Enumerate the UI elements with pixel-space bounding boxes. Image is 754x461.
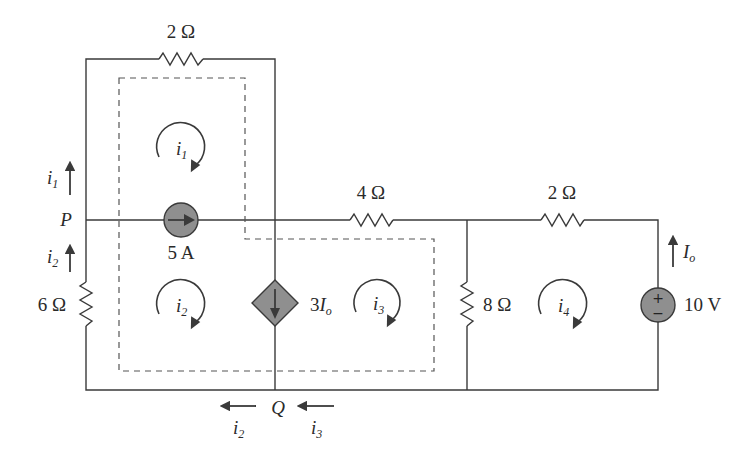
label-r-8ohm: 8 Ω [483,294,511,315]
mesh-i3-label: i3 [373,293,384,317]
resistor-top-2ohm [159,53,203,65]
label-r-4ohm: 4 Ω [357,182,385,203]
label-dependent-source: 3Io [310,294,332,318]
label-10v: 10 V [684,294,721,315]
node-q-label: Q [271,397,285,418]
label-r-right-2ohm: 2 Ω [548,182,576,203]
branch-i2-bottom-label: i2 [233,417,244,441]
dependent-current-source [252,280,298,326]
node-p-label: P [59,209,72,230]
label-5a: 5 A [168,242,195,263]
branch-i1-label: i1 [47,167,58,191]
branch-i2-label: i2 [47,246,58,270]
resistor-6ohm [80,282,92,326]
label-r-top: 2 Ω [167,21,195,42]
resistor-right-2ohm [541,214,584,226]
circuit-diagram: + − 2 Ω 4 Ω 2 Ω 6 Ω 8 Ω 5 A 10 V 3Io P Q… [0,0,754,461]
voltage-source-10v: + − [641,288,675,322]
mesh-i2-label: i2 [176,295,187,319]
mesh-i4-label: i4 [558,295,569,319]
label-r-6ohm: 6 Ω [38,294,66,315]
branch-i3-bottom-label: i3 [311,417,322,441]
mesh-i1-label: i1 [176,138,187,162]
current-source-5a [164,203,198,237]
resistor-8ohm [461,282,473,326]
plus-sign: + [652,290,664,306]
minus-sign: − [652,305,664,321]
resistor-4ohm [350,214,393,226]
io-label: Io [682,241,695,265]
